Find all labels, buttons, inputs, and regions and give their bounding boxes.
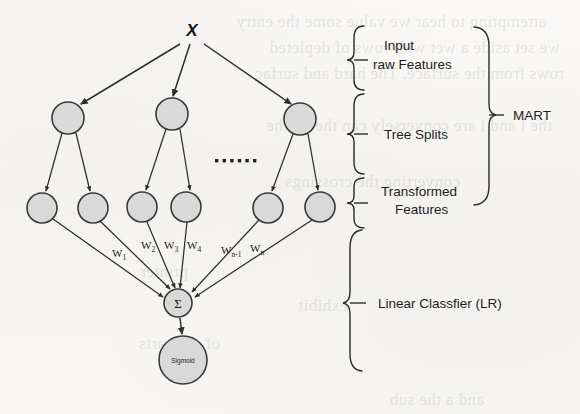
weight-label-3: W3 [164, 239, 178, 254]
edge-split1-leaf2 [76, 133, 90, 191]
leaf-node-3 [127, 192, 157, 222]
edge-split3-leaf6 [308, 134, 318, 190]
leaf-to-sum-edges [53, 219, 312, 297]
weight-label-group: W1W2W3W4Wn-1Wn [112, 239, 264, 262]
tree-split-node-1 [52, 102, 84, 134]
edge-split2-leaf4 [180, 129, 190, 190]
weight-label-1: W1 [112, 247, 126, 262]
brace-mart [474, 27, 504, 205]
edge-x-to-split-1 [81, 44, 180, 104]
leaf-node-4 [171, 192, 201, 222]
label-input-raw-features-line1: Input [384, 38, 414, 53]
edge-split1-leaf1 [46, 133, 62, 191]
brace-transformed-features [347, 178, 368, 228]
ellipsis-icon [215, 159, 256, 162]
figure-canvas: attempting to hear we value some the ent… [0, 0, 580, 414]
leaf-node-2 [78, 193, 108, 223]
edge-leaf3-sum [147, 222, 175, 288]
leaf-node-group [27, 192, 335, 223]
label-mart: MART [513, 108, 551, 123]
label-transformed-line2: Features [395, 202, 449, 217]
input-vector-label: X [185, 21, 199, 40]
label-linear-classifier: Linear Classfier (LR) [378, 296, 502, 311]
sigmoid-node-label: Sigmoid [171, 357, 195, 365]
edge-sum-to-sigmoid [180, 318, 182, 334]
ellipsis-dot [215, 159, 218, 162]
ellipsis-dot [253, 159, 256, 162]
label-tree-splits: Tree Splits [384, 127, 448, 142]
tree-split-node-group [52, 98, 316, 135]
weight-label-6: Wn [250, 242, 264, 257]
edge-leaf4-sum [180, 222, 187, 288]
edge-leaf6-sum [195, 220, 312, 297]
tree-split-node-3 [284, 103, 316, 135]
weight-label-2: W2 [141, 239, 155, 254]
input-to-splits-edges [81, 44, 291, 104]
edge-x-to-split-3 [204, 44, 291, 104]
sum-node-label: Σ [174, 296, 182, 311]
edge-leaf5-sum [192, 220, 259, 292]
weight-label-4: W4 [187, 239, 201, 254]
edge-x-to-split-2 [173, 44, 190, 96]
ellipsis-dot [230, 159, 233, 162]
label-transformed-line1: Transformed [381, 184, 457, 199]
ellipsis-dot [245, 159, 248, 162]
leaf-node-6 [305, 192, 335, 222]
edge-leaf2-sum [100, 221, 170, 289]
brace-input-raw-features [347, 26, 368, 90]
edge-split3-leaf5 [272, 134, 293, 191]
label-input-raw-features-line2: raw Features [373, 57, 452, 72]
tree-split-node-2 [156, 98, 188, 130]
ellipsis-dot [238, 159, 241, 162]
edge-leaf1-sum [53, 219, 163, 297]
leaf-node-1 [27, 193, 57, 223]
ellipsis-dot [223, 159, 226, 162]
brace-linear-classifier [343, 230, 366, 371]
edge-split2-leaf3 [146, 129, 166, 190]
split-to-leaf-edges [46, 129, 318, 191]
brace-tree-splits [347, 94, 368, 174]
leaf-node-5 [253, 193, 283, 223]
architecture-diagram: X [0, 0, 580, 414]
